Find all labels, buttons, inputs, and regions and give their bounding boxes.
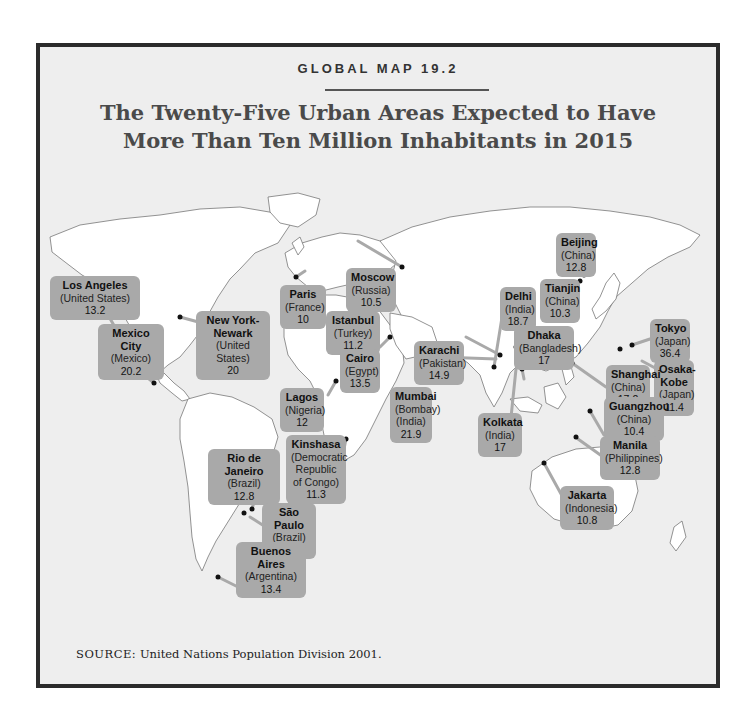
city-label-beijing: Beijing (China) 12.8 <box>556 233 596 277</box>
city-label-new-york-newark: New York- Newark (United States) 20 <box>196 311 270 380</box>
city-label-rio-de-janeiro: Rio de Janeiro (Brazil) 12.8 <box>208 449 280 505</box>
city-label-manila: Manila (Philippines) 12.8 <box>600 436 660 480</box>
city-label-istanbul: Istanbul (Turkey) 11.2 <box>326 311 380 355</box>
city-label-dhaka: Dhaka (Bangladesh) 17 <box>514 326 574 370</box>
city-label-karachi: Karachi (Pakistan) 14.9 <box>414 341 464 385</box>
city-label-lagos: Lagos (Nigeria) 12 <box>280 388 324 432</box>
city-label-delhi: Delhi (India) 18.7 <box>500 287 536 331</box>
source-note: SOURCE: United Nations Population Divisi… <box>76 647 382 661</box>
city-label-buenos-aires: Buenos Aires (Argentina) 13.4 <box>236 542 306 598</box>
source-text: United Nations Population Division 2001. <box>140 647 382 661</box>
city-label-guangzhou: Guangzhou (China) 10.4 <box>604 397 664 441</box>
city-label-tianjin: Tianjin (China) 10.3 <box>540 279 580 323</box>
city-label-kinshasa: Kinshasa (Democratic Republic of Congo) … <box>286 435 346 504</box>
city-label-moscow: Moscow (Russia) 10.5 <box>346 268 396 312</box>
city-label-tokyo: Tokyo (Japan) 36.4 <box>650 319 690 363</box>
city-label-paris: Paris (France) 10 <box>280 285 326 329</box>
city-label-mexico-city: Mexico City (Mexico) 20.2 <box>98 324 164 380</box>
city-label-los-angeles: Los Angeles (United States) 13.2 <box>50 276 140 320</box>
source-key: SOURCE: <box>76 647 136 661</box>
city-label-mumbai: Mumbai (Bombay) (India) 21.9 <box>390 387 432 443</box>
city-label-cairo: Cairo (Egypt) 13.5 <box>340 349 380 393</box>
city-label-kolkata: Kolkata (India) 17 <box>478 413 522 457</box>
map-figure: GLOBAL MAP 19.2 The Twenty-Five Urban Ar… <box>36 43 720 688</box>
city-label-jakarta: Jakarta (Indonesia) 10.8 <box>560 486 614 530</box>
